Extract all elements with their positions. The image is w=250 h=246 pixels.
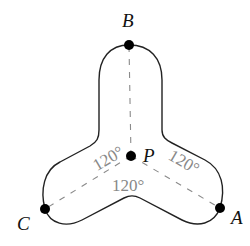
segment-pb	[129, 45, 131, 156]
label-a: A	[229, 207, 243, 228]
label-b: B	[122, 10, 134, 31]
region-outline	[43, 45, 223, 224]
point-b	[124, 40, 134, 50]
angle-label-right: 120°	[165, 146, 202, 179]
point-p	[126, 151, 136, 161]
point-c	[40, 204, 50, 214]
tripod-diagram: B P C A 120° 120° 120°	[0, 0, 250, 246]
point-a	[215, 203, 225, 213]
label-p: P	[142, 145, 155, 166]
angle-label-bottom: 120°	[112, 176, 144, 195]
label-c: C	[17, 213, 30, 234]
